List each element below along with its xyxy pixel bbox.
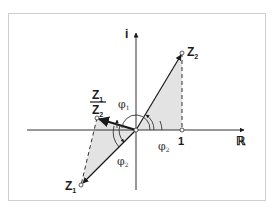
complex-plane-diagram: i ℝ 1 Z2 Z1 Z1 Z2 φ1 φ2 φ2 [0, 0, 272, 208]
real-axis-label: ℝ [236, 134, 246, 148]
point-z1 [79, 183, 83, 187]
point-z2 [180, 51, 184, 55]
unit-label: 1 [178, 135, 184, 147]
diagram-frame [9, 14, 266, 201]
point-unit [180, 128, 184, 132]
point-origin [134, 128, 138, 132]
imag-axis-label: i [125, 27, 128, 41]
